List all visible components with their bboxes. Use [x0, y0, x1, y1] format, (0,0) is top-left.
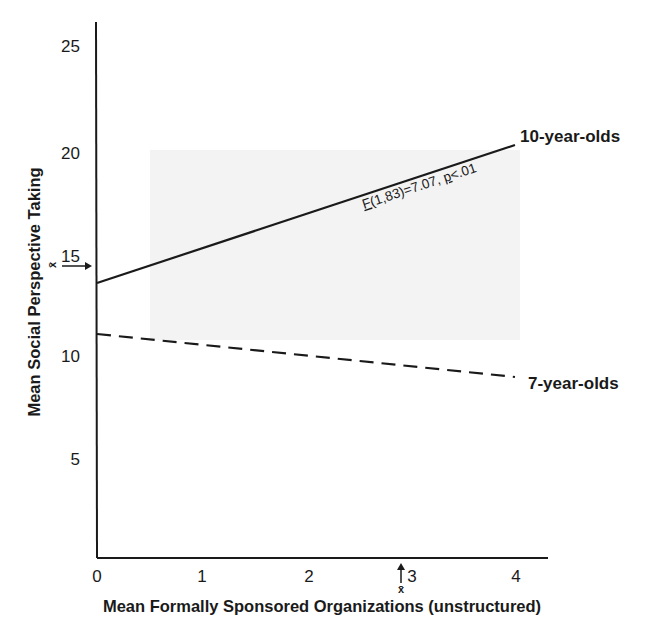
y-axis-title: Mean Social Perspective Taking: [25, 167, 43, 416]
x-tick-2: 2: [304, 567, 313, 586]
x-mean-symbol: x̄: [398, 583, 405, 595]
y-tick-10: 10: [61, 347, 80, 366]
x-tick-0: 0: [92, 567, 101, 586]
chart-svg: 25 20 15 10 5 x̄ 0 1 2 3 4 x̄ F(1,83)=7.…: [0, 0, 659, 625]
x-tick-3: 3: [407, 567, 416, 586]
y-tick-20: 20: [61, 144, 80, 163]
y-tick-5: 5: [71, 450, 80, 469]
x-tick-1: 1: [197, 567, 206, 586]
y-axis: [96, 22, 97, 558]
x-tick-4: 4: [511, 567, 520, 586]
y-mean-symbol: x̄: [46, 261, 58, 268]
line-7-year-olds: [97, 334, 515, 377]
chart-figure: 25 20 15 10 5 x̄ 0 1 2 3 4 x̄ F(1,83)=7.…: [0, 0, 659, 625]
x-mean-arrow-icon: [397, 563, 405, 583]
series-label-7-year-olds: 7-year-olds: [528, 374, 619, 393]
y-tick-25: 25: [61, 37, 80, 56]
y-tick-15: 15: [61, 247, 80, 266]
x-axis-title: Mean Formally Sponsored Organizations (u…: [103, 597, 541, 615]
series-label-10-year-olds: 10-year-olds: [520, 127, 620, 146]
